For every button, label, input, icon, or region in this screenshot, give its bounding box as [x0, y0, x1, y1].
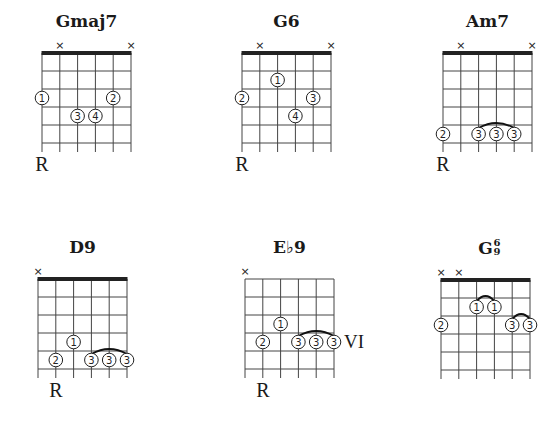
chord-diagram-sheet: Gmaj7××1234RG6××1234RAm7××2333RD9×12333R…: [0, 0, 558, 425]
chord-title-subscript: 9: [494, 246, 501, 257]
finger-number: 3: [313, 337, 319, 348]
finger-number: 3: [295, 337, 301, 348]
chord-title: Gmaj7: [56, 11, 118, 31]
finger-number: 3: [310, 93, 316, 104]
finger-number: 4: [92, 111, 98, 122]
finger-number: 3: [74, 111, 80, 122]
chord-diagram: G69××11233: [434, 237, 537, 379]
muted-string-x-icon: ×: [33, 265, 42, 278]
finger-number: 3: [493, 129, 499, 140]
chords-layer: Gmaj7××1234RG6××1234RAm7××2333RD9×12333R…: [33, 11, 536, 401]
finger-number: 3: [106, 355, 112, 366]
fret-position-label: VI: [344, 331, 364, 352]
root-label: R: [436, 153, 450, 175]
root-label: R: [235, 153, 249, 175]
finger-number: 4: [292, 111, 298, 122]
finger-number: 1: [473, 302, 479, 313]
chord-diagram: Gmaj7××1234R: [35, 11, 135, 175]
chord-title: G: [478, 238, 493, 258]
finger-number: 2: [110, 93, 116, 104]
finger-number: 2: [440, 129, 446, 140]
finger-number: 2: [438, 320, 444, 331]
muted-string-x-icon: ×: [326, 39, 335, 52]
chord-title: D9: [69, 237, 96, 257]
finger-number: 3: [527, 320, 533, 331]
finger-number: 3: [509, 320, 515, 331]
chord-diagram: G6××1234R: [235, 11, 335, 175]
finger-number: 2: [260, 337, 266, 348]
muted-string-x-icon: ×: [456, 39, 465, 52]
muted-string-x-icon: ×: [126, 39, 135, 52]
finger-number: 1: [39, 93, 45, 104]
muted-string-x-icon: ×: [527, 39, 536, 52]
finger-number: 1: [491, 302, 497, 313]
finger-number: 2: [53, 355, 59, 366]
chord-title: E♭9: [273, 237, 306, 257]
finger-number: 1: [274, 75, 280, 86]
muted-string-x-icon: ×: [55, 39, 64, 52]
root-label: R: [256, 379, 270, 401]
finger-number: 3: [331, 337, 337, 348]
finger-number: 3: [511, 129, 517, 140]
chord-title: G6: [273, 11, 299, 31]
root-label: R: [35, 153, 49, 175]
chord-diagram: Am7××2333R: [436, 11, 536, 175]
chord-diagram: D9×12333R: [33, 237, 133, 401]
finger-number: 2: [239, 93, 245, 104]
chord-title: Am7: [465, 11, 509, 31]
finger-number: 3: [88, 355, 94, 366]
muted-string-x-icon: ×: [454, 266, 463, 279]
finger-number: 3: [124, 355, 130, 366]
muted-string-x-icon: ×: [436, 266, 445, 279]
finger-number: 1: [70, 337, 76, 348]
finger-number: 3: [475, 129, 481, 140]
finger-number: 1: [277, 319, 283, 330]
root-label: R: [49, 379, 63, 401]
chord-diagram: E♭9×12333RVI: [240, 237, 364, 401]
nut-bar: [38, 277, 128, 281]
muted-string-x-icon: ×: [240, 265, 249, 278]
muted-string-x-icon: ×: [255, 39, 264, 52]
